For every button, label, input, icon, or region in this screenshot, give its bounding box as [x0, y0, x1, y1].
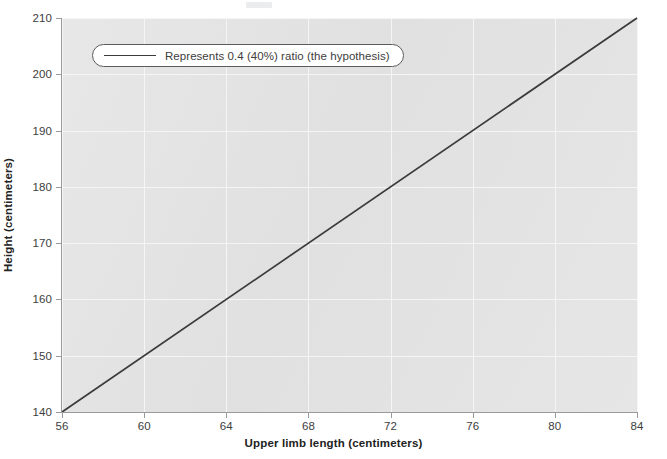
x-axis-spine	[61, 412, 638, 413]
y-tick-mark	[56, 74, 62, 75]
x-tick-mark	[144, 412, 145, 418]
y-tick-label: 200	[33, 68, 53, 80]
y-tick-mark	[56, 243, 62, 244]
chart-figure: 140150160170180190200210 566064687276808…	[0, 0, 667, 459]
plot-area	[62, 18, 637, 412]
x-tick-label: 76	[466, 420, 479, 432]
x-tick-label: 60	[138, 420, 151, 432]
x-tick-label: 72	[384, 420, 397, 432]
x-tick-mark	[555, 412, 556, 418]
y-axis-title: Height (centimeters)	[0, 18, 16, 412]
x-tick-label: 80	[548, 420, 561, 432]
y-tick-mark	[56, 356, 62, 357]
y-tick-label: 210	[33, 12, 53, 24]
x-axis-title: Upper limb length (centimeters)	[0, 437, 667, 449]
x-tick-mark	[391, 412, 392, 418]
y-tick-label: 180	[33, 181, 53, 193]
y-axis-spine	[61, 18, 62, 413]
x-tick-mark	[62, 412, 63, 418]
data-line-svg	[62, 18, 637, 412]
x-tick-label: 68	[302, 420, 315, 432]
y-tick-mark	[56, 131, 62, 132]
x-tick-mark	[308, 412, 309, 418]
y-tick-label: 170	[33, 237, 53, 249]
y-tick-mark	[56, 18, 62, 19]
x-tick-mark	[226, 412, 227, 418]
x-tick-mark	[473, 412, 474, 418]
x-tick-label: 56	[56, 420, 69, 432]
y-tick-label: 160	[33, 293, 53, 305]
chart-legend[interactable]: Represents 0.4 (40%) ratio (the hypothes…	[92, 44, 404, 67]
x-tick-mark	[637, 412, 638, 418]
x-tick-label: 64	[220, 420, 233, 432]
y-tick-label: 140	[33, 406, 53, 418]
scan-artifact	[246, 2, 272, 8]
y-tick-mark	[56, 187, 62, 188]
line-swatch-icon	[104, 55, 156, 56]
series-line	[62, 18, 637, 412]
gridline-vertical	[637, 18, 638, 412]
y-tick-label: 190	[33, 125, 53, 137]
y-tick-label: 150	[33, 350, 53, 362]
y-tick-mark	[56, 299, 62, 300]
x-tick-label: 84	[631, 420, 644, 432]
legend-entry-label: Represents 0.4 (40%) ratio (the hypothes…	[165, 50, 390, 62]
